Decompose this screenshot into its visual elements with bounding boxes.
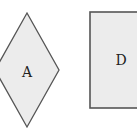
node-d-label: D bbox=[115, 52, 126, 68]
node-a: A bbox=[0, 13, 59, 127]
node-d: D bbox=[90, 12, 137, 108]
diagram-canvas: A D bbox=[0, 0, 137, 133]
node-a-label: A bbox=[21, 64, 33, 80]
rectangle-shape bbox=[90, 12, 137, 108]
